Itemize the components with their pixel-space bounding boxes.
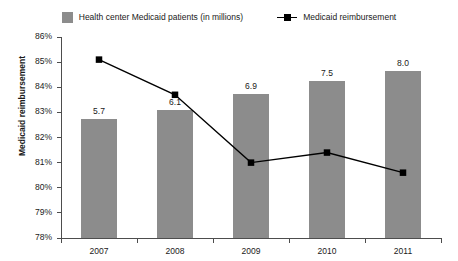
y-tick-label: 84%	[0, 81, 52, 91]
x-tick-mark	[137, 238, 138, 243]
x-tick-label: 2007	[69, 246, 129, 256]
legend-label-bar-series: Health center Medicaid patients (in mill…	[79, 13, 243, 22]
legend-item-bar-series: Health center Medicaid patients (in mill…	[62, 12, 243, 23]
bar-value-label: 5.7	[79, 106, 119, 116]
y-tick-label: 81%	[0, 157, 52, 167]
x-tick-label: 2011	[373, 246, 433, 256]
bar	[157, 110, 193, 238]
x-tick-mark	[365, 238, 366, 243]
bar	[385, 71, 421, 239]
legend-label-line-series: Medicaid reimbursement	[303, 13, 396, 22]
y-tick-label: 85%	[0, 56, 52, 66]
bar	[81, 119, 117, 238]
x-tick-label: 2009	[221, 246, 281, 256]
x-tick-mark	[61, 238, 62, 243]
x-tick-label: 2010	[297, 246, 357, 256]
x-tick-label: 2008	[145, 246, 205, 256]
x-axis-line	[61, 238, 442, 239]
y-tick-label: 86%	[0, 31, 52, 41]
line-marker-icon	[277, 12, 297, 23]
bar	[309, 81, 345, 238]
x-tick-mark	[289, 238, 290, 243]
chart-legend: Health center Medicaid patients (in mill…	[0, 12, 458, 23]
bar-value-label: 7.5	[307, 68, 347, 78]
y-tick-label: 83%	[0, 106, 52, 116]
x-tick-mark	[213, 238, 214, 243]
y-tick-label: 78%	[0, 232, 52, 242]
y-tick-label: 82%	[0, 132, 52, 142]
legend-item-line-series: Medicaid reimbursement	[277, 12, 396, 23]
chart-container: Health center Medicaid patients (in mill…	[0, 0, 458, 261]
y-tick-label: 79%	[0, 207, 52, 217]
bar-value-label: 6.9	[231, 81, 271, 91]
bar-swatch-icon	[62, 12, 73, 23]
bar-value-label: 8.0	[383, 58, 423, 68]
y-tick-label: 80%	[0, 182, 52, 192]
bar-value-label: 6.1	[155, 97, 195, 107]
x-tick-mark	[441, 238, 442, 243]
bar	[233, 94, 269, 238]
